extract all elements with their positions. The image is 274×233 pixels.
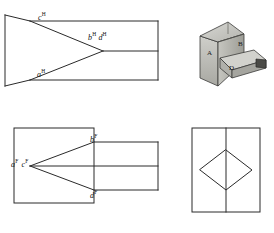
side-view-profile xyxy=(180,120,274,220)
side-view-geometry xyxy=(180,120,274,220)
pictorial-geometry xyxy=(192,16,272,88)
wedge-lower-left-line xyxy=(5,80,30,86)
front-notch-upper-line xyxy=(30,142,94,166)
front-notch-lower-line xyxy=(30,166,94,190)
pictorial-arm-end-cap xyxy=(256,59,266,68)
top-view-horizontal xyxy=(0,12,170,97)
wedge-upper-left-line xyxy=(5,15,30,21)
pictorial-left-face xyxy=(200,36,218,86)
pictorial-label-d: D xyxy=(229,64,234,72)
front-view-frontal xyxy=(0,120,170,220)
label-d-f: dF xyxy=(90,189,97,200)
label-a-h: aH xyxy=(37,68,45,79)
label-bd-h: bHdH xyxy=(88,31,107,42)
label-c-h: cH xyxy=(38,11,46,22)
top-view-geometry xyxy=(0,12,170,97)
label-ac-f: aFcF xyxy=(11,158,29,169)
label-b-f: bF xyxy=(90,133,97,144)
pictorial-label-b: B xyxy=(238,40,243,48)
pictorial-label-a: A xyxy=(207,49,212,57)
pictorial-view xyxy=(192,16,272,88)
front-view-geometry xyxy=(0,120,170,220)
drawing-sheet: cH bHdH aH bF aFcF xyxy=(0,0,274,233)
